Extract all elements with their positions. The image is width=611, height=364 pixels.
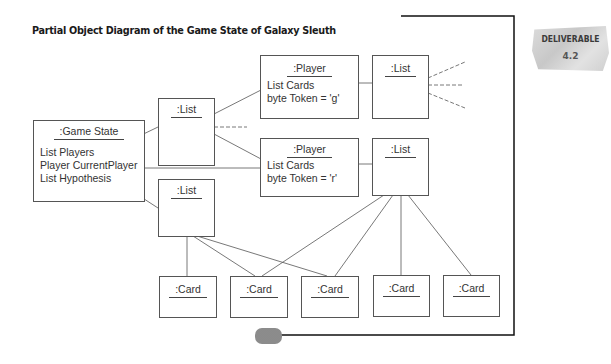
player-r-attributes: List Cards byte Token = 'r'	[267, 159, 337, 185]
cards-list-r-name: :List	[385, 143, 416, 158]
link-r-card-3	[335, 195, 393, 276]
link-cards-g-more-1	[428, 62, 465, 78]
card-name: :Card	[311, 283, 349, 298]
game-state-object: :Game State List Players Player CurrentP…	[33, 120, 145, 202]
attr-list-cards: List Cards	[267, 159, 337, 172]
cards-list-r-object: :List	[372, 138, 429, 196]
attr-token: byte Token = 'g'	[267, 92, 339, 105]
link-list-player-g	[214, 90, 261, 114]
card-object: :Card	[301, 276, 359, 318]
card-name: :Card	[383, 282, 421, 297]
link-r-card-5	[408, 195, 471, 275]
player-r-object: :Player List Cards byte Token = 'r'	[260, 138, 359, 197]
card-name: :Card	[240, 283, 278, 298]
card-object: :Card	[230, 276, 288, 318]
player-g-name: :Player	[287, 62, 332, 77]
players-list-object: :List	[158, 98, 215, 166]
cards-list-g-object: :List	[372, 55, 429, 119]
card-object: :Card	[443, 275, 500, 317]
link-cards-g-more-3	[428, 93, 465, 108]
hypothesis-list-name: :List	[171, 184, 202, 199]
card-object: :Card	[373, 275, 430, 317]
attr-list-hypothesis: List Hypothesis	[40, 172, 137, 185]
cards-list-g-name: :List	[385, 62, 416, 77]
attr-list-players: List Players	[40, 146, 137, 159]
players-list-name: :List	[171, 103, 202, 118]
link-hyp-card-3	[197, 236, 327, 276]
game-state-attributes: List Players Player CurrentPlayer List H…	[40, 146, 137, 185]
game-state-name: :Game State	[54, 125, 125, 140]
player-r-name: :Player	[287, 143, 332, 158]
card-object: :Card	[159, 276, 217, 318]
player-g-attributes: List Cards byte Token = 'g'	[267, 79, 339, 105]
attr-current-player: Player CurrentPlayer	[40, 159, 137, 172]
attr-list-cards: List Cards	[267, 79, 339, 92]
link-r-card-2	[262, 195, 384, 276]
link-hyp-card-2	[193, 236, 255, 276]
player-g-object: :Player List Cards byte Token = 'g'	[260, 55, 359, 119]
attr-token: byte Token = 'r'	[267, 172, 337, 185]
frame-end-tab	[255, 328, 282, 344]
card-name: :Card	[169, 283, 207, 298]
hypothesis-list-object: :List	[158, 179, 215, 237]
link-list-player-r	[214, 134, 261, 159]
card-name: :Card	[453, 282, 491, 297]
